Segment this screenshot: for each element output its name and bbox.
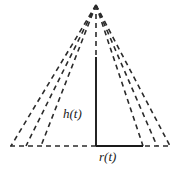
middle-triangle-left-edge [26, 5, 96, 146]
middle-triangle-right-edge [96, 5, 157, 146]
inner-triangle-left-edge [41, 5, 96, 146]
outer-triangle-right-edge [96, 5, 170, 146]
radius-label: r(t) [99, 150, 116, 163]
inner-triangle-right-edge [96, 5, 143, 146]
cone-diagram-svg [0, 0, 176, 170]
height-label: h(t) [63, 107, 82, 120]
outer-triangle-left-edge [11, 5, 96, 146]
cone-expansion-figure: h(t) r(t) [0, 0, 176, 170]
